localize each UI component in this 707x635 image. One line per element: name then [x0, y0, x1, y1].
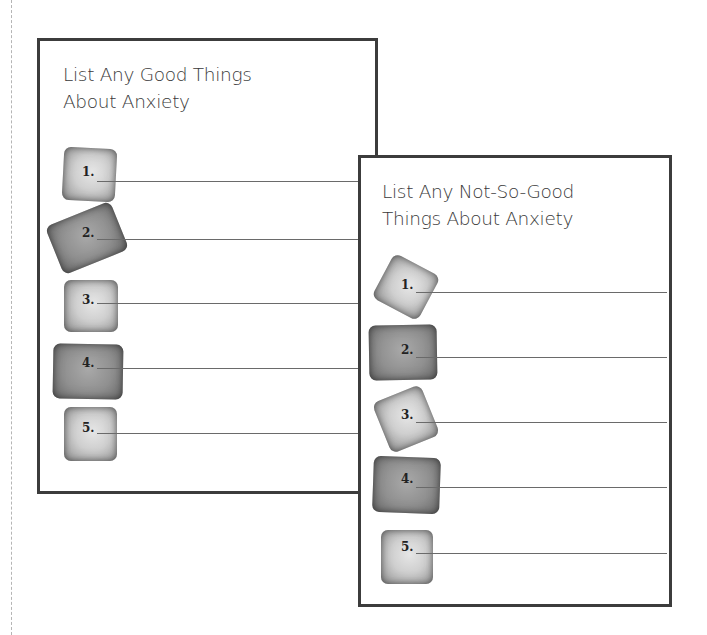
good-things-card: List Any Good Things About Anxiety 1. 2.…	[37, 38, 378, 494]
item-number: 5.	[401, 540, 414, 554]
item-number: 1.	[401, 278, 414, 292]
answer-line[interactable]	[416, 422, 667, 423]
item-number: 5.	[82, 421, 95, 435]
item-number: 2.	[401, 343, 414, 357]
answer-line[interactable]	[416, 357, 667, 358]
title-line-2: Things About Anxiety	[382, 205, 574, 232]
not-so-good-things-title: List Any Not-So-Good Things About Anxiet…	[382, 178, 574, 232]
answer-line[interactable]	[97, 433, 359, 434]
answer-line[interactable]	[97, 303, 359, 304]
good-item-1: 1.	[40, 148, 375, 208]
good-things-title: List Any Good Things About Anxiety	[63, 61, 252, 115]
bad-item-2: 2.	[361, 323, 669, 383]
answer-line[interactable]	[416, 553, 667, 554]
item-number: 1.	[82, 165, 95, 179]
item-number: 2.	[82, 226, 95, 240]
stone-icon	[53, 343, 124, 399]
bad-item-1: 1.	[361, 258, 669, 318]
good-item-4: 4.	[40, 341, 375, 401]
not-so-good-things-card: List Any Not-So-Good Things About Anxiet…	[358, 155, 672, 607]
stone-icon	[381, 530, 433, 584]
bad-item-5: 5.	[361, 526, 669, 586]
bad-item-3: 3.	[361, 388, 669, 448]
good-item-3: 3.	[40, 279, 375, 339]
title-line-2: About Anxiety	[63, 88, 252, 115]
item-number: 3.	[82, 293, 95, 307]
answer-line[interactable]	[97, 181, 359, 182]
good-item-5: 5.	[40, 406, 375, 466]
bad-item-4: 4.	[361, 456, 669, 516]
answer-line[interactable]	[416, 292, 667, 293]
item-number: 4.	[82, 356, 95, 370]
title-line-1: List Any Not-So-Good	[382, 178, 574, 205]
item-number: 3.	[401, 408, 414, 422]
answer-line[interactable]	[416, 487, 667, 488]
good-item-2: 2.	[40, 206, 375, 266]
item-number: 4.	[401, 472, 414, 486]
answer-line[interactable]	[97, 368, 359, 369]
cut-line-margin	[11, 0, 12, 635]
title-line-1: List Any Good Things	[63, 61, 252, 88]
answer-line[interactable]	[97, 239, 359, 240]
